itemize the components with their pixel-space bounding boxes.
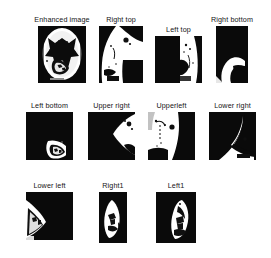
- panel-left-top[interactable]: Left top: [155, 36, 202, 83]
- panel-image-upper-right: [88, 112, 135, 160]
- panel-image-lower-right: [209, 112, 256, 160]
- panel-image-right1: [99, 192, 127, 243]
- panel-label: Lower left: [33, 181, 65, 190]
- panel-label: Left bottom: [31, 101, 68, 110]
- panel-label: Right1: [102, 181, 123, 190]
- panel-label: Upperleft: [156, 101, 186, 110]
- panel-image-right-top: [99, 26, 143, 83]
- panel-left1[interactable]: Left1: [156, 192, 196, 243]
- panel-label: Left1: [168, 181, 185, 190]
- panel-image-left-bottom: [26, 112, 73, 160]
- panel-label: Enhanced image: [34, 15, 89, 24]
- panel-image-lower-left: [26, 192, 73, 240]
- panel-label: Right top: [106, 15, 136, 24]
- panel-upper-left[interactable]: Upperleft: [148, 112, 195, 160]
- panel-label: Right bottom: [211, 15, 253, 24]
- panel-image-right-bottom: [216, 26, 248, 83]
- image-grid-figure: Enhanced image: [0, 0, 271, 258]
- panel-lower-right[interactable]: Lower right: [209, 112, 256, 160]
- panel-image-left1: [156, 192, 196, 243]
- panel-upper-right[interactable]: Upper right: [88, 112, 135, 160]
- panel-right-bottom[interactable]: Right bottom: [216, 26, 248, 83]
- panel-left-bottom[interactable]: Left bottom: [26, 112, 73, 160]
- panel-enhanced-image[interactable]: Enhanced image: [38, 26, 86, 83]
- panel-right1[interactable]: Right1: [99, 192, 127, 243]
- panel-label: Lower right: [214, 101, 251, 110]
- panel-image-left-top: [155, 36, 202, 83]
- panel-image-enhanced: [38, 26, 86, 83]
- panel-label: Upper right: [93, 101, 130, 110]
- panel-right-top[interactable]: Right top: [99, 26, 143, 83]
- panel-label: Left top: [166, 25, 191, 34]
- panel-lower-left[interactable]: Lower left: [26, 192, 73, 240]
- panel-image-upper-left: [148, 112, 195, 160]
